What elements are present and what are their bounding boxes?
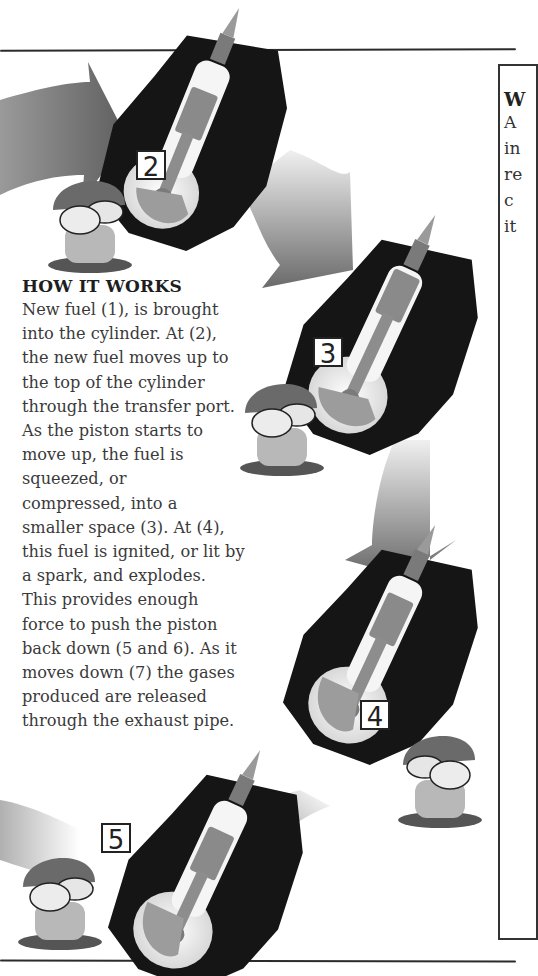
sidebar-line: c <box>504 190 514 210</box>
body-line: smaller space (3). At (4), <box>22 516 262 540</box>
mechanic-4 <box>18 858 102 950</box>
stage-card-2: 2 <box>136 150 166 180</box>
sidebar-line: A <box>504 112 516 132</box>
body-line: through the exhaust pipe. <box>22 709 262 733</box>
body-line: force to push the piston <box>22 613 262 637</box>
body-line: compressed, into a <box>22 492 262 516</box>
body-line: the top of the cylinder <box>22 371 262 395</box>
body-line: produced are released <box>22 685 262 709</box>
sidebar-line: it <box>504 216 516 236</box>
body-line: New fuel (1), is brought <box>22 298 262 322</box>
body-line: through the transfer port. <box>22 395 262 419</box>
body-line: back down (5 and 6). As it <box>22 637 262 661</box>
body-line: This provides enough <box>22 588 262 612</box>
mechanic-3 <box>398 736 482 828</box>
sidebar-box: W A in re c it <box>498 64 538 940</box>
how-it-works-section: HOW IT WORKS New fuel (1), is brought in… <box>22 276 262 734</box>
body-line: moves down (7) the gases <box>22 661 262 685</box>
sidebar-line: re <box>504 164 522 184</box>
body-line: the new fuel moves up to <box>22 346 262 370</box>
stage-card-5: 5 <box>101 823 131 853</box>
stage-card-3: 3 <box>313 337 343 367</box>
stage-card-4: 4 <box>360 700 390 730</box>
body-line: into the cylinder. At (2), <box>22 322 262 346</box>
body-line: move up, the fuel is <box>22 443 262 467</box>
body-line: As the piston starts to <box>22 419 262 443</box>
body-line: this fuel is ignited, or lit by <box>22 540 262 564</box>
sidebar-title: W <box>504 88 525 110</box>
sidebar-line: in <box>504 138 520 158</box>
how-it-works-heading: HOW IT WORKS <box>22 276 262 296</box>
mechanic-1 <box>48 181 132 273</box>
body-line: a spark, and explodes. <box>22 564 262 588</box>
body-line: squeezed, or <box>22 467 262 491</box>
